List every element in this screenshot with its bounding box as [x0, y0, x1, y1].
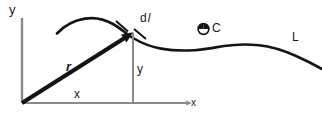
- position-vector-r-label: r: [66, 60, 71, 73]
- point-c-label: C: [212, 22, 221, 34]
- curve-L-label: L: [292, 31, 299, 43]
- dl-label-prefix: d: [140, 11, 147, 25]
- y-axis-label: y: [9, 3, 16, 16]
- coordinate-x-label: x: [74, 88, 80, 100]
- dl-label-symbol: l: [147, 11, 151, 25]
- curve-L-path: [57, 18, 322, 69]
- dl-label: dl: [140, 12, 150, 24]
- point-c-marker-icon: [198, 24, 209, 35]
- coordinate-y-label: y: [137, 63, 143, 75]
- diagram-canvas: [0, 0, 322, 125]
- dl-tick-mark-right: [134, 29, 146, 39]
- x-axis-label: x: [191, 98, 196, 108]
- line-integral-diagram: y x r x y dl L C: [0, 0, 322, 125]
